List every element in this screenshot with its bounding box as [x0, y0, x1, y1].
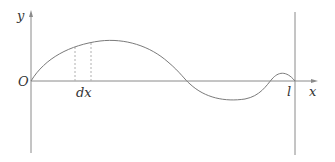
- x-axis-arrow-icon: [311, 79, 318, 83]
- origin-label: O: [18, 75, 29, 88]
- x-axis-label: x: [309, 85, 316, 98]
- y-axis-arrow-icon: [29, 10, 33, 17]
- dx-label: dx: [76, 86, 92, 99]
- y-axis-label: y: [17, 9, 24, 22]
- string-wave-diagram: [0, 0, 335, 162]
- l-label: l: [287, 85, 291, 98]
- displacement-curve: [31, 40, 295, 100]
